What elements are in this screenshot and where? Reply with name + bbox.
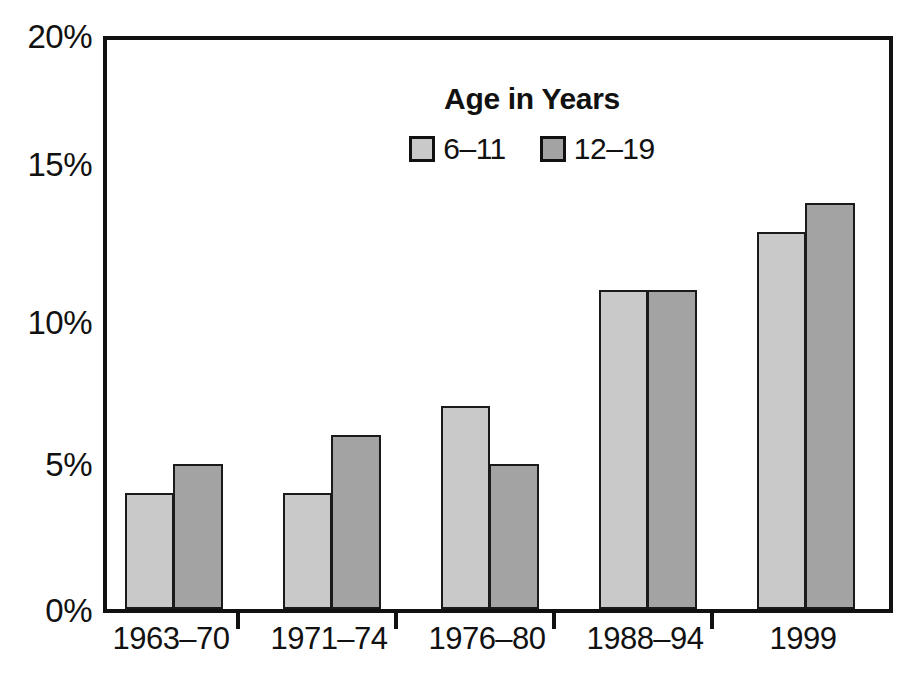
dark-gray-swatch-icon (540, 136, 566, 162)
bar-1999-6-11 (757, 232, 806, 609)
x-tick-label-1988-94: 1988–94 (565, 622, 725, 656)
x-tick-label-1976-80: 1976–80 (407, 622, 567, 656)
bar-1999-12-19 (805, 203, 855, 609)
x-tick-label-1963-70: 1963–70 (91, 622, 251, 656)
legend-entries: 6–11 12–19 (397, 134, 667, 164)
bar-1971-74-12-19 (331, 435, 381, 609)
x-tick-label-1971-74: 1971–74 (249, 622, 409, 656)
bar-1971-74-6-11 (283, 493, 332, 609)
y-tick-label-10: 10% (27, 306, 92, 339)
legend-entry-6-11: 6–11 (409, 134, 506, 164)
bar-chart-figure: 20% 15% 10% 5% 0% Age in Years (0, 0, 922, 673)
bar-1963-70-12-19 (173, 464, 223, 609)
plot-area: Age in Years 6–11 12–19 (103, 36, 893, 613)
light-gray-swatch-icon (409, 136, 435, 162)
legend-title: Age in Years (397, 82, 667, 116)
y-tick-label-0: 0% (45, 594, 92, 627)
bar-1988-94-6-11 (599, 290, 648, 609)
bar-1976-80-12-19 (489, 464, 539, 609)
y-tick-label-20: 20% (27, 20, 92, 53)
x-tick-label-1999: 1999 (723, 622, 883, 656)
y-tick-label-15: 15% (27, 148, 92, 181)
legend-label-6-11: 6–11 (443, 134, 506, 164)
legend-entry-12-19: 12–19 (540, 134, 655, 164)
bar-1963-70-6-11 (125, 493, 174, 609)
legend-label-12-19: 12–19 (574, 134, 655, 164)
legend: Age in Years 6–11 12–19 (397, 82, 667, 164)
y-axis: 20% 15% 10% 5% 0% (0, 0, 92, 673)
y-tick-label-5: 5% (45, 448, 92, 481)
bar-1988-94-12-19 (647, 290, 697, 609)
bar-1976-80-6-11 (441, 406, 490, 609)
